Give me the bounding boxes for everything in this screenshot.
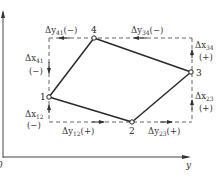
- edge-3-4: [94, 38, 191, 72]
- node-label-1: 1: [40, 92, 46, 102]
- edge-4-1: [49, 38, 94, 97]
- label-dx41-sign: (−): [29, 66, 43, 76]
- label-dy34: Δy34(−): [131, 25, 163, 36]
- increment-arrows: [49, 38, 192, 122]
- label-dx34-sign: (+): [199, 52, 213, 62]
- label-dx12: Δx12: [25, 109, 44, 120]
- label-dx12-sign: (−): [27, 120, 41, 130]
- edge-1-2: [49, 97, 132, 122]
- node-label-3: 3: [196, 68, 202, 78]
- label-dy23: Δy23(+): [148, 126, 180, 137]
- label-dx41: Δx41: [25, 53, 44, 64]
- increment-labels: Δy41(−) Δy34(−) Δx34 (+) Δx41 (−) Δx23 (…: [25, 25, 214, 137]
- label-dx34: Δx34: [195, 40, 214, 51]
- node-1: [47, 95, 51, 99]
- label-dy12: Δy12(+): [62, 126, 94, 137]
- edge-2-3: [132, 72, 191, 122]
- origin-label: 0: [0, 160, 3, 170]
- label-dx23-sign: (+): [199, 103, 213, 113]
- node-label-2: 2: [129, 126, 135, 136]
- horizontal-axis-arrow-icon: [182, 155, 191, 159]
- traverse-diagram: y 0 1 2 3 4 Δy: [0, 0, 224, 178]
- node-label-4: 4: [91, 25, 97, 35]
- increment-dashes: [49, 38, 192, 122]
- node-2: [130, 120, 134, 124]
- horizontal-axis-label: y: [185, 160, 192, 170]
- label-dy41: Δy41(−): [45, 25, 77, 36]
- node-3: [189, 70, 193, 74]
- node-4: [92, 36, 96, 40]
- traverse-polygon: [49, 38, 191, 122]
- vertical-axis-arrow-icon: [1, 10, 5, 18]
- label-dx23: Δx23: [195, 91, 214, 102]
